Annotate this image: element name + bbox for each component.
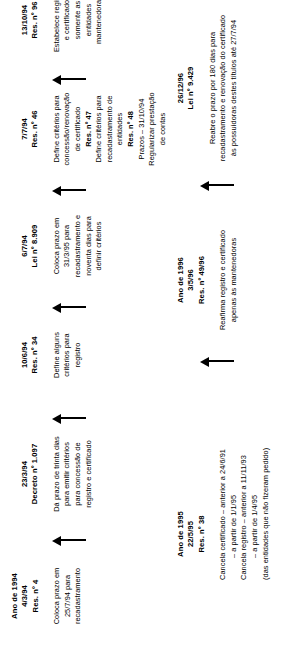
connector-arrow-3	[52, 302, 82, 313]
event-date-ev2: 23/3/94	[20, 426, 30, 522]
event-body-line: mantenedoras	[94, 0, 105, 68]
event-date-ev9: 26/12/96	[176, 2, 186, 174]
event-body-line: noventa dias para	[84, 198, 95, 294]
timeline-event-ev1: Ano de 1994 4/3/94 Res. nº 4 Coloca praz…	[10, 548, 84, 644]
event-header-ev3: 10/6/94 Res. nº 34	[20, 307, 41, 403]
event-norm-ev3: Res. nº 34	[30, 307, 40, 403]
event-norm-ev5: Res. nº 46	[30, 75, 40, 183]
event-body-line: (das entidades que não fizeram pedido)	[261, 400, 272, 580]
event-header-ev6: 13/10/94 Res. nº 96	[20, 0, 41, 68]
event-body-line: Coloca prazo em	[52, 198, 63, 294]
timeline-event-ev4: 6/7/94 Lei nº 8.909 Coloca prazo em 31/3…	[20, 198, 105, 294]
event-norm-ev8: Res. nº 49/96	[197, 214, 207, 346]
event-body-line: registro	[73, 307, 84, 403]
event-body-line: Estabelece registro	[52, 0, 63, 68]
event-body-line: recadastramento de	[105, 75, 116, 183]
event-body-line: Cancela certificado – anterior a 24/6/91	[218, 400, 229, 580]
event-header-ev4: 6/7/94 Lei nº 8.909	[20, 198, 41, 294]
event-body-line: 31/3/95 para	[62, 198, 73, 294]
event-body-line: de certificado	[73, 75, 84, 183]
timeline-event-ev9: 26/12/96 Lei nº 9.429 Reabre o prazo por…	[176, 2, 240, 174]
event-body-line: às possuidoras destes títulos até 27/7/9…	[229, 2, 240, 174]
event-date-ev5: 7/7/94	[20, 75, 30, 183]
timeline-event-ev7: Ano de 1995 22/5/95 Res. nº 38 Cancela c…	[176, 400, 271, 580]
event-header-ev9: 26/12/96 Lei nº 9.429	[176, 2, 197, 174]
event-body-ev3: Define alguns critérios para registro	[52, 307, 84, 403]
timeline-event-ev2: 23/3/94 Decreto nº 1.097 Dá prazo de tri…	[20, 426, 94, 522]
event-body-line: Define alguns	[52, 307, 63, 403]
event-body-ev8: Reafirma registro e certificado apenas à…	[218, 214, 239, 346]
event-norm-ev2: Decreto nº 1.097	[30, 426, 40, 522]
event-body-line: Res. nº 47	[84, 75, 95, 183]
connector-arrow-2	[52, 413, 82, 424]
event-header-ev2: 23/3/94 Decreto nº 1.097	[20, 426, 41, 522]
event-body-line: Res. nº 48	[126, 75, 137, 183]
event-body-ev9: Reabre o prazo por 180 dias para recadas…	[208, 2, 240, 174]
event-body-line: para emitir critérios	[62, 426, 73, 522]
event-header-ev8: Ano de 1996 3/5/96 Res. nº 49/96	[176, 214, 207, 346]
event-body-line: 25/7/94 para	[63, 548, 74, 644]
connector-arrow-5	[52, 74, 82, 85]
event-norm-ev4: Lei nº 8.909	[30, 198, 40, 294]
timeline-event-ev5: 7/7/94 Res. nº 46 Define critérios para …	[20, 75, 168, 183]
event-body-line: recadastramento e	[73, 198, 84, 294]
event-body-ev2: Dá prazo de trinta dias para emitir crit…	[52, 426, 94, 522]
event-body-line: Cancela registro – anterior a 11/11/93	[239, 400, 250, 580]
event-body-line: recadastramento	[73, 548, 84, 644]
rotated-canvas: Ano de 1994 4/3/94 Res. nº 4 Coloca praz…	[0, 0, 289, 646]
event-year-ev8: Ano de 1996	[176, 214, 186, 346]
event-date-ev1: 4/3/94	[20, 548, 30, 644]
event-body-line: – a partir de 1/1/95	[229, 400, 240, 580]
event-body-line: Reafirma registro e certificado	[218, 214, 229, 346]
event-norm-ev1: Res. nº 4	[31, 548, 41, 644]
connector-arrow-1	[52, 535, 82, 546]
timeline-diagram: Ano de 1994 4/3/94 Res. nº 4 Coloca praz…	[0, 0, 289, 646]
event-body-line: somente as	[73, 0, 84, 68]
event-body-line: e certificado	[62, 0, 73, 68]
event-body-line: critérios para	[62, 307, 73, 403]
event-norm-ev6: Res. nº 96	[30, 0, 40, 68]
event-year-ev7: Ano de 1995	[176, 488, 186, 580]
event-body-line: Regularizar prestação	[147, 75, 158, 183]
event-body-line: registro e certificado	[84, 426, 95, 522]
event-body-line: Dá prazo de trinta dias	[52, 426, 63, 522]
connector-arrow-4	[52, 185, 82, 196]
event-body-line: de contas	[158, 75, 169, 183]
event-body-ev5: Define critérios para concessão/renovaçã…	[52, 75, 169, 183]
event-body-ev1: Coloca prazo em 25/7/94 para recadastram…	[52, 548, 84, 644]
event-date-ev3: 10/6/94	[20, 307, 30, 403]
event-body-line: Prazos – 31/10/94	[137, 75, 148, 183]
event-body-line: para concessão de	[73, 426, 84, 522]
event-body-line: concessão/renovação	[62, 75, 73, 183]
event-header-ev7: Ano de 1995 22/5/95 Res. nº 38	[176, 488, 207, 580]
event-body-line: Coloca prazo em	[52, 548, 63, 644]
timeline-event-ev8: Ano de 1996 3/5/96 Res. nº 49/96 Reafirm…	[176, 214, 239, 346]
connector-arrow-6	[200, 356, 230, 367]
event-body-line: definir critérios	[94, 198, 105, 294]
event-body-line: apenas às mantenedoras	[229, 214, 240, 346]
event-date-ev6: 13/10/94	[20, 0, 30, 68]
event-norm-ev9: Lei nº 9.429	[186, 2, 196, 174]
timeline-event-ev3: 10/6/94 Res. nº 34 Define alguns critéri…	[20, 307, 84, 403]
event-body-line: recadastramento e renovação do certifica…	[218, 2, 229, 174]
event-body-ev6: Estabelece registro e certificado soment…	[52, 0, 105, 68]
event-body-ev7: Cancela certificado – anterior a 24/6/91…	[218, 400, 271, 580]
connector-arrow-7	[200, 180, 230, 191]
event-body-ev4: Coloca prazo em 31/3/95 para recadastram…	[52, 198, 105, 294]
event-body-line: Define critérios para	[52, 75, 63, 183]
event-year-ev1: Ano de 1994	[10, 548, 20, 644]
event-body-line: Define critérios para	[94, 75, 105, 183]
event-norm-ev7: Res. nº 38	[197, 488, 207, 580]
event-date-ev7: 22/5/95	[186, 488, 196, 580]
event-body-line: – a partir de 1/4/95	[250, 400, 261, 580]
event-header-ev5: 7/7/94 Res. nº 46	[20, 75, 41, 183]
event-body-line: entidades	[84, 0, 95, 68]
event-header-ev1: Ano de 1994 4/3/94 Res. nº 4	[10, 548, 41, 644]
event-body-line: Reabre o prazo por 180 dias para	[208, 2, 219, 174]
event-body-line: entidades	[115, 75, 126, 183]
event-date-ev8: 3/5/96	[186, 214, 196, 346]
event-date-ev4: 6/7/94	[20, 198, 30, 294]
timeline-event-ev6: 13/10/94 Res. nº 96 Estabelece registro …	[20, 0, 105, 68]
